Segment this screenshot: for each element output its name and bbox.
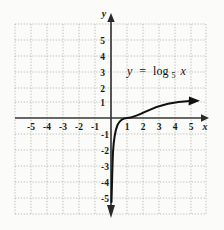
x-tick-label: -3: [59, 122, 67, 132]
graph-figure: 5 4 3 2 1 -1 -2 -3 -4 -5 -5 -4 -3 -2 -1 …: [0, 0, 224, 230]
x-tick-label: 3: [157, 122, 162, 132]
y-tick-label: -3: [101, 162, 109, 172]
y-tick-label: -2: [101, 146, 109, 156]
equation-base: 5: [171, 71, 175, 80]
x-tick-label: -5: [27, 122, 35, 132]
equation-y: y: [126, 64, 133, 78]
y-tick-label: 2: [100, 84, 105, 94]
svg-text:y = log: y = log 5 x: [126, 64, 186, 81]
equation-label: y = log 5 x: [126, 64, 186, 81]
x-tick-label: 2: [141, 122, 146, 132]
equation-equals: =: [139, 64, 146, 78]
curve-path: [112, 101, 191, 202]
x-tick-label: -1: [91, 122, 99, 132]
x-axis-label: x: [202, 121, 208, 132]
curve-arrow-icon: [189, 97, 200, 106]
equation-log: log: [153, 64, 168, 78]
y-tick-label: 4: [100, 52, 105, 62]
y-tick-labels: 5 4 3 2 1 -1 -2 -3 -4 -5: [100, 36, 109, 204]
y-tick-label: -4: [101, 178, 109, 188]
y-tick-label: 3: [100, 68, 105, 78]
y-tick-label: 1: [100, 98, 105, 108]
equation-argument: x: [179, 64, 186, 78]
y-axis-label: y: [101, 8, 107, 19]
y-tick-label: -5: [101, 194, 109, 204]
y-tick-label: -1: [101, 130, 109, 140]
log-curve: [112, 97, 201, 202]
y-axis-arrow-down-icon: [107, 205, 115, 218]
x-tick-label: -2: [75, 122, 83, 132]
y-tick-label: 5: [100, 36, 105, 46]
x-tick-label: 4: [173, 122, 178, 132]
x-tick-label: 5: [189, 122, 194, 132]
y-axis-arrow-up-icon: [107, 13, 114, 22]
x-tick-label: 1: [125, 122, 130, 132]
x-tick-label: -4: [43, 122, 51, 132]
coordinate-plane: 5 4 3 2 1 -1 -2 -3 -4 -5 -5 -4 -3 -2 -1 …: [0, 0, 224, 230]
